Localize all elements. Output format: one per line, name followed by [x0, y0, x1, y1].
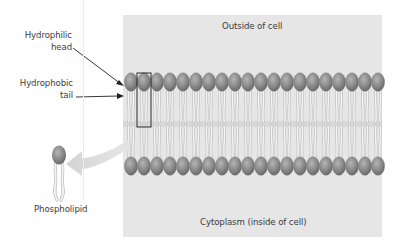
phospholipid-head-icon — [293, 73, 306, 92]
tail-icon — [232, 126, 233, 158]
head-pointer-arrow — [73, 48, 124, 86]
phospholipid-head-icon — [176, 157, 189, 176]
tail-icon — [237, 90, 238, 122]
tail-icon — [310, 90, 311, 122]
tail-icon — [367, 90, 368, 122]
diagram-canvas: Outside of cell Cytoplasm (inside of cel… — [0, 0, 395, 247]
tail-icon — [328, 90, 329, 122]
tail-icon — [185, 90, 186, 122]
tail-icon — [341, 126, 342, 158]
tail-icon — [315, 90, 316, 122]
phospholipid-head-icon — [345, 73, 358, 92]
tail-icon — [276, 90, 277, 122]
phospholipid-head-icon — [371, 157, 384, 176]
tail-icon — [367, 126, 368, 158]
phospholipid-head-icon — [241, 157, 254, 176]
tail-icon — [354, 126, 355, 158]
tail-icon — [180, 90, 181, 122]
tail-icon — [141, 126, 142, 158]
tail-icon — [133, 126, 134, 158]
tail-icon — [336, 90, 337, 122]
tail-icon — [141, 90, 142, 122]
tail-icon — [245, 90, 246, 122]
tail-icon — [323, 90, 324, 122]
phospholipid-head-icon — [241, 73, 254, 92]
phospholipid-head-icon — [332, 157, 345, 176]
tail-icon — [159, 126, 160, 158]
tail-icon — [375, 126, 376, 158]
tail-icon — [219, 90, 220, 122]
tail-icon — [276, 126, 277, 158]
tail-icon — [180, 126, 181, 158]
tail-icon — [133, 90, 134, 122]
tail-icon — [245, 126, 246, 158]
tail-icon — [362, 90, 363, 122]
tail-icon — [263, 90, 264, 122]
phospholipid-head-icon — [280, 73, 293, 92]
hydrophobic-tail-label-line2: tail — [5, 89, 73, 101]
tail-icon — [271, 126, 272, 158]
page-fold-line — [83, 0, 84, 200]
tail-icon — [258, 126, 259, 158]
tail-icon — [302, 90, 303, 122]
tail-icon — [146, 90, 147, 122]
tail-icon — [284, 90, 285, 122]
tail-icon — [310, 126, 311, 158]
hydrophobic-tail-label: Hydrophobic tail — [5, 77, 73, 101]
tail-icon — [211, 126, 212, 158]
phospholipid-head-icon — [124, 157, 137, 176]
phospholipid-head-icon — [215, 73, 228, 92]
single-phospholipid-icon — [52, 146, 66, 201]
phospholipid-head-icon — [254, 73, 267, 92]
tail-icon — [154, 90, 155, 122]
tail-icon — [172, 90, 173, 122]
phospholipid-head-icon — [319, 73, 332, 92]
tail-icon — [237, 126, 238, 158]
phospholipid-head-icon — [202, 157, 215, 176]
bilayer-midline — [123, 121, 382, 127]
tail-icon — [185, 126, 186, 158]
tail-icon — [159, 90, 160, 122]
phospholipid-head-icon — [306, 157, 319, 176]
phospholipid-head-icon — [267, 157, 280, 176]
tail-icon — [297, 90, 298, 122]
cytoplasm-label: Cytoplasm (inside of cell) — [200, 216, 306, 228]
tail-icon — [154, 126, 155, 158]
phospholipid-head-icon — [332, 73, 345, 92]
tail-icon — [336, 126, 337, 158]
tail-icon — [219, 126, 220, 158]
tail-icon — [193, 126, 194, 158]
phospholipid-head-icon — [189, 157, 202, 176]
tail-icon — [362, 126, 363, 158]
phospholipid-head-icon — [280, 157, 293, 176]
tail-icon — [224, 126, 225, 158]
tail-icon — [263, 126, 264, 158]
phospholipid-head-icon — [124, 73, 137, 92]
phospholipid-head-icon — [358, 73, 371, 92]
phospholipid-head-icon — [176, 73, 189, 92]
phospholipid-head-icon — [137, 73, 150, 92]
phospholipid-head-icon — [345, 157, 358, 176]
tail-icon — [232, 90, 233, 122]
tail-icon — [224, 90, 225, 122]
tail-icon — [198, 126, 199, 158]
tail-icon — [198, 90, 199, 122]
tail-icon — [206, 126, 207, 158]
tail-icon — [128, 126, 129, 158]
phospholipid-head-icon — [150, 73, 163, 92]
phospholipid-head-icon — [163, 73, 176, 92]
hydrophobic-tail-label-line1: Hydrophobic — [5, 77, 73, 89]
tail-icon — [271, 90, 272, 122]
tail-icon — [172, 126, 173, 158]
tail-icon — [289, 90, 290, 122]
tail-icon — [250, 90, 251, 122]
tail-icon — [146, 126, 147, 158]
phospholipid-head-icon — [319, 157, 332, 176]
tail-icon — [328, 126, 329, 158]
tail-icon — [323, 126, 324, 158]
tail-icon — [211, 90, 212, 122]
phospholipid-head-icon — [267, 73, 280, 92]
phospholipid-label: Phospholipid — [34, 203, 87, 215]
hydrophilic-head-label: Hydrophilic head — [10, 29, 72, 53]
tail-icon — [128, 90, 129, 122]
